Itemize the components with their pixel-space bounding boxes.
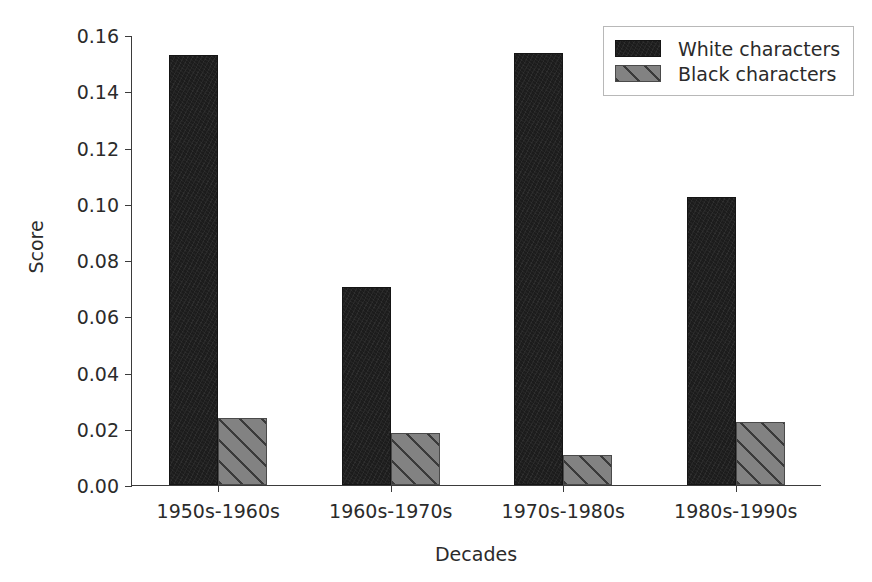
y-tick-mark bbox=[125, 205, 132, 206]
legend-item-black-characters: Black characters bbox=[615, 61, 840, 86]
y-tick-mark bbox=[125, 92, 132, 93]
plot-area: 0.000.020.040.060.080.100.120.140.16 195… bbox=[131, 36, 821, 486]
y-axis-title: Score bbox=[25, 187, 47, 307]
legend-swatch-white-characters bbox=[615, 40, 661, 57]
y-tick-label: 0.00 bbox=[77, 475, 119, 497]
bar-white-characters-1950s-1960s bbox=[169, 55, 218, 485]
y-tick-label: 0.04 bbox=[77, 363, 119, 385]
bar-black-characters-1980s-1990s bbox=[736, 422, 785, 485]
bar-black-characters-1950s-1960s bbox=[218, 418, 267, 485]
bar-white-characters-1980s-1990s bbox=[687, 197, 736, 485]
y-tick-mark bbox=[125, 261, 132, 262]
y-tick-label: 0.10 bbox=[77, 194, 119, 216]
bar-chart-figure: 0.000.020.040.060.080.100.120.140.16 195… bbox=[0, 0, 872, 582]
bar-white-characters-1960s-1970s bbox=[342, 287, 391, 485]
bar-black-characters-1960s-1970s bbox=[391, 433, 440, 485]
x-tick-label: 1970s-1980s bbox=[502, 500, 625, 522]
y-tick-label: 0.02 bbox=[77, 419, 119, 441]
legend: White characters Black characters bbox=[603, 26, 854, 96]
bars-layer bbox=[132, 36, 821, 485]
legend-item-white-characters: White characters bbox=[615, 36, 840, 61]
y-tick-label: 0.16 bbox=[77, 25, 119, 47]
y-tick-mark bbox=[125, 149, 132, 150]
x-tick-mark bbox=[218, 485, 219, 492]
x-axis-title: Decades bbox=[131, 543, 821, 565]
y-tick-mark bbox=[125, 486, 132, 487]
y-tick-label: 0.12 bbox=[77, 138, 119, 160]
y-tick-label: 0.06 bbox=[77, 306, 119, 328]
y-tick-mark bbox=[125, 374, 132, 375]
y-tick-mark bbox=[125, 430, 132, 431]
legend-label-black-characters: Black characters bbox=[678, 63, 836, 85]
y-tick-mark bbox=[125, 317, 132, 318]
bar-white-characters-1970s-1980s bbox=[514, 53, 563, 485]
x-tick-mark bbox=[391, 485, 392, 492]
legend-swatch-black-characters bbox=[615, 65, 661, 82]
x-tick-mark bbox=[736, 485, 737, 492]
y-tick-mark bbox=[125, 36, 132, 37]
y-tick-label: 0.08 bbox=[77, 250, 119, 272]
x-tick-mark bbox=[563, 485, 564, 492]
x-tick-label: 1960s-1970s bbox=[329, 500, 452, 522]
y-tick-label: 0.14 bbox=[77, 81, 119, 103]
x-tick-label: 1980s-1990s bbox=[674, 500, 797, 522]
legend-label-white-characters: White characters bbox=[678, 38, 840, 60]
bar-black-characters-1970s-1980s bbox=[563, 455, 612, 485]
x-tick-label: 1950s-1960s bbox=[157, 500, 280, 522]
